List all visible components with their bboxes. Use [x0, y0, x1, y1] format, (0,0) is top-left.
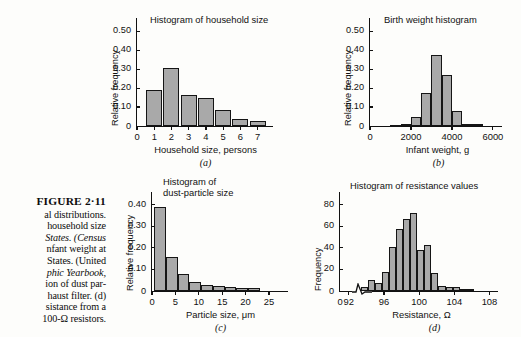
y-axis-line-a [136, 18, 137, 127]
caption-line: al distributions. [0, 209, 106, 221]
x-tick-label-b: 0 [350, 131, 390, 142]
y-tick-b [369, 88, 373, 89]
x-tick-d [419, 291, 420, 295]
y-tick-b [369, 31, 373, 32]
x-axis-line-b [369, 126, 502, 127]
x-tick-a [223, 126, 224, 130]
bar-c-0 [154, 207, 166, 291]
x-tick-a [136, 126, 137, 130]
x-tick-label-c: 25 [249, 296, 289, 307]
x-tick-label-d: 92 [329, 296, 369, 307]
x-tick-a [171, 126, 172, 130]
y-tick-label-c: 0.30 [112, 220, 146, 230]
x-tick-label-a: 7 [238, 131, 278, 142]
y-tick-label-c: 0.10 [112, 263, 146, 273]
x-axis-label-a: Household size, persons [140, 144, 271, 155]
y-tick-d [339, 269, 343, 270]
bar-d-9 [424, 245, 431, 291]
figure-label: FIGURE 2·11 [0, 196, 106, 208]
bar-d-0 [361, 287, 368, 291]
caption-line: phic Yearbook, [0, 267, 106, 279]
y-tick-c [151, 204, 155, 205]
y-tick-label-d: 40 [300, 242, 334, 252]
y-tick-label-a: 0.10 [97, 101, 131, 111]
x-axis-label-b: Infant weight, g [374, 144, 501, 155]
bar-c-1 [166, 257, 178, 291]
x-tick-c [222, 291, 223, 295]
bar-a-2 [181, 95, 197, 126]
bar-d-8 [417, 250, 424, 291]
y-tick-a [136, 69, 140, 70]
chart-title-d: Histogram of resistance values [350, 180, 478, 191]
x-tick-b [369, 126, 370, 130]
y-tick-label-a: 0.30 [97, 63, 131, 73]
x-axis-label-c: Particle size, μm [155, 309, 286, 320]
chart-title-b: Birth weight histogram [384, 14, 477, 25]
y-tick-label-c: 0.20 [112, 242, 146, 252]
x-tick-b [410, 126, 411, 130]
bar-c-8 [248, 288, 260, 291]
bar-d-6 [403, 219, 410, 291]
y-tick-d [339, 226, 343, 227]
chart-title-c-line1: Histogram of [163, 176, 216, 187]
bar-b-6 [452, 111, 462, 126]
y-tick-label-d: 60 [300, 220, 334, 230]
caption-line: sistance from a [0, 301, 106, 313]
bar-a-4 [215, 110, 231, 126]
bar-c-6 [225, 287, 237, 291]
y-origin-label-d: 0 [300, 286, 334, 296]
y-tick-a [136, 88, 140, 89]
caption-line: 100-Ω resistors. [0, 313, 106, 325]
bar-a-0 [146, 90, 162, 126]
x-axis-label-d: Resistance, Ω [345, 309, 498, 320]
x-tick-d [454, 291, 455, 295]
bar-b-7 [462, 124, 472, 126]
y-tick-d [339, 247, 343, 248]
y-tick-a [136, 31, 140, 32]
caption-line: ion of dust par- [0, 278, 106, 290]
x-tick-c [175, 291, 176, 295]
x-tick-label-d: 108 [469, 296, 509, 307]
bar-d-14 [460, 289, 467, 291]
figure-caption: FIGURE 2·11 al distributions. household … [0, 196, 106, 325]
y-tick-b [369, 69, 373, 70]
y-tick-label-b: 0.10 [330, 101, 364, 111]
bar-d-5 [396, 229, 403, 291]
bar-d-4 [389, 247, 396, 291]
x-tick-c [151, 291, 152, 295]
x-tick-d [489, 291, 490, 295]
x-tick-a [154, 126, 155, 130]
x-tick-label-b: 4000 [432, 131, 472, 142]
x-tick-label-d: 104 [434, 296, 474, 307]
bar-c-2 [178, 274, 190, 291]
bar-b-2 [411, 117, 421, 126]
x-tick-a [240, 126, 241, 130]
y-origin-label-a: 0 [97, 121, 131, 131]
bar-d-10 [431, 273, 438, 291]
caption-line: nfant weight at [0, 243, 106, 255]
bar-a-5 [232, 119, 248, 126]
y-tick-b [369, 106, 373, 107]
x-tick-b [492, 126, 493, 130]
x-tick-c [268, 291, 269, 295]
chart-title-a: Histogram of household size [150, 14, 268, 25]
x-tick-label-d: 100 [399, 296, 439, 307]
y-tick-d [339, 204, 343, 205]
bar-b-3 [421, 93, 431, 126]
bar-c-5 [213, 286, 225, 291]
bar-a-3 [198, 98, 214, 126]
x-tick-label-b: 2000 [391, 131, 431, 142]
x-tick-b [451, 126, 452, 130]
y-tick-label-b: 0.50 [330, 25, 364, 35]
panel-letter-c: (c) [175, 322, 266, 333]
y-tick-a [136, 50, 140, 51]
x-tick-label-d: 96 [364, 296, 404, 307]
bar-c-7 [236, 288, 248, 291]
x-tick-a [257, 126, 258, 130]
bar-a-6 [250, 121, 266, 126]
y-origin-label-b: 0 [330, 121, 364, 131]
y-tick-label-d: 20 [300, 263, 334, 273]
y-axis-line-b [369, 18, 370, 127]
x-tick-d [348, 291, 349, 295]
x-tick-a [188, 126, 189, 130]
